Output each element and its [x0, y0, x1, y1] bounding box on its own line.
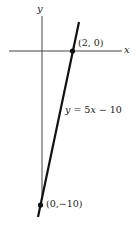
point-y-intercept [38, 202, 43, 207]
point-x-intercept [70, 48, 75, 53]
y-intercept-label: (0,−10) [46, 199, 83, 209]
x-intercept-label: (2, 0) [78, 38, 104, 48]
equation-tail: − 10 [96, 104, 122, 115]
equation-rhs: = 5 [70, 104, 90, 115]
x-axis-label: x [124, 45, 130, 55]
y-axis-label: y [37, 4, 43, 14]
equation-label: y = 5x − 10 [65, 105, 122, 115]
